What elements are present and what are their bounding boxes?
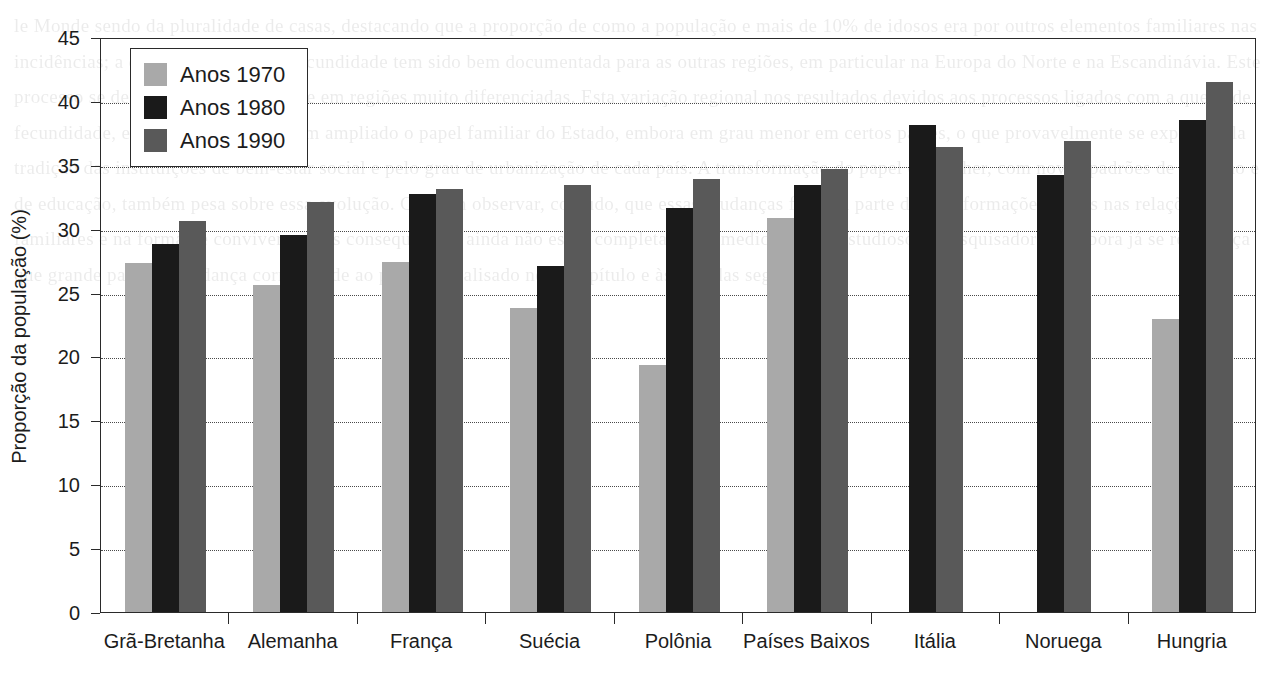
bar <box>253 285 280 612</box>
y-tick-label: 0 <box>28 602 80 625</box>
y-tick-label: 25 <box>28 282 80 305</box>
x-tick-mark <box>485 613 486 624</box>
legend-item: Anos 1990 <box>144 124 285 157</box>
y-tick-mark <box>91 294 100 295</box>
x-tick-mark <box>999 613 1000 624</box>
bar <box>1179 120 1206 612</box>
bar <box>152 244 179 612</box>
y-tick-mark <box>91 102 100 103</box>
y-tick-label: 20 <box>28 346 80 369</box>
y-tick-mark <box>91 38 100 39</box>
y-tick-mark <box>91 613 100 614</box>
y-axis-title: Proporção da população (%) <box>8 57 31 617</box>
y-tick-mark <box>91 357 100 358</box>
legend-label-1990: Anos 1990 <box>180 128 285 154</box>
bar <box>794 185 821 612</box>
bar <box>1206 82 1233 612</box>
bar <box>639 365 666 612</box>
legend-item: Anos 1980 <box>144 91 285 124</box>
bar <box>821 169 848 612</box>
x-tick-mark <box>228 613 229 624</box>
bar <box>936 147 963 612</box>
y-tick-label: 15 <box>28 410 80 433</box>
y-tick-label: 40 <box>28 90 80 113</box>
bar <box>307 202 334 612</box>
y-tick-label: 35 <box>28 154 80 177</box>
legend-label-1970: Anos 1970 <box>180 62 285 88</box>
x-tick-mark <box>742 613 743 624</box>
legend-swatch-1990 <box>144 129 167 152</box>
x-tick-label: Hungria <box>1157 630 1227 653</box>
bar <box>510 308 537 612</box>
bar <box>1152 319 1179 612</box>
y-tick-mark <box>91 485 100 486</box>
y-tick-mark <box>91 549 100 550</box>
x-tick-label: Grã-Bretanha <box>104 630 225 653</box>
bar <box>1037 175 1064 612</box>
y-tick-mark <box>91 166 100 167</box>
legend-label-1980: Anos 1980 <box>180 95 285 121</box>
y-tick-label: 10 <box>28 474 80 497</box>
legend-swatch-1980 <box>144 96 167 119</box>
x-tick-label: Países Baixos <box>743 630 870 653</box>
x-tick-label: Noruega <box>1025 630 1102 653</box>
x-tick-mark <box>357 613 358 624</box>
legend-swatch-1970 <box>144 63 167 86</box>
bar <box>909 125 936 612</box>
x-tick-label: Polônia <box>645 630 712 653</box>
x-tick-mark <box>1128 613 1129 624</box>
bar <box>693 179 720 612</box>
legend-item: Anos 1970 <box>144 58 285 91</box>
y-tick-label: 45 <box>28 27 80 50</box>
x-tick-mark <box>614 613 615 624</box>
bar-chart: Proporção da população (%) 0510152025303… <box>0 0 1282 681</box>
legend: Anos 1970 Anos 1980 Anos 1990 <box>130 48 308 167</box>
bar <box>125 263 152 612</box>
bar <box>280 235 307 612</box>
y-tick-label: 5 <box>28 538 80 561</box>
x-tick-mark <box>871 613 872 624</box>
bar <box>179 221 206 612</box>
y-tick-label: 30 <box>28 218 80 241</box>
x-tick-label: França <box>390 630 452 653</box>
bar <box>382 262 409 612</box>
bar <box>436 189 463 612</box>
x-tick-label: Suécia <box>519 630 580 653</box>
bar <box>537 266 564 612</box>
bar <box>1064 141 1091 613</box>
bar <box>409 194 436 612</box>
y-tick-mark <box>91 421 100 422</box>
bar <box>767 218 794 612</box>
x-tick-label: Itália <box>914 630 956 653</box>
y-tick-mark <box>91 230 100 231</box>
bar <box>564 185 591 612</box>
bar <box>666 208 693 612</box>
x-tick-label: Alemanha <box>248 630 338 653</box>
